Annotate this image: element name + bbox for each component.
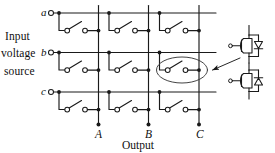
switch-a-B [107,11,150,33]
terminal-circle-c [49,90,54,95]
switch-a-C [158,11,201,33]
switch-b-B [107,51,150,73]
switch-c-C [158,90,201,112]
input-source-label-line2: voltage [1,48,36,60]
switch-c-B [107,90,150,112]
terminal-circle-b [49,50,54,55]
switch-a-A [57,11,100,33]
switch-c-A [57,90,100,112]
output-label-C: C [196,129,204,141]
circuit-schematic [0,0,275,153]
igbt-upper [229,26,252,64]
terminal-label-b: b [41,47,47,58]
output-label-A: A [95,129,102,141]
output-terminal-dots [97,123,202,127]
switch-b-C [158,51,201,73]
callout-leader-line [213,58,241,70]
output-group-label: Output [122,140,154,152]
switch-b-A [57,51,100,73]
terminal-label-c: c [41,86,46,97]
terminal-label-a: a [41,7,47,18]
input-source-label-line1: Input [5,31,30,43]
terminal-circle-a [49,11,54,16]
matrix-converter-figure: Input voltage source a b c A B C Output [0,0,275,153]
input-source-label-line3: source [4,66,35,78]
igbt-lower [229,63,252,99]
